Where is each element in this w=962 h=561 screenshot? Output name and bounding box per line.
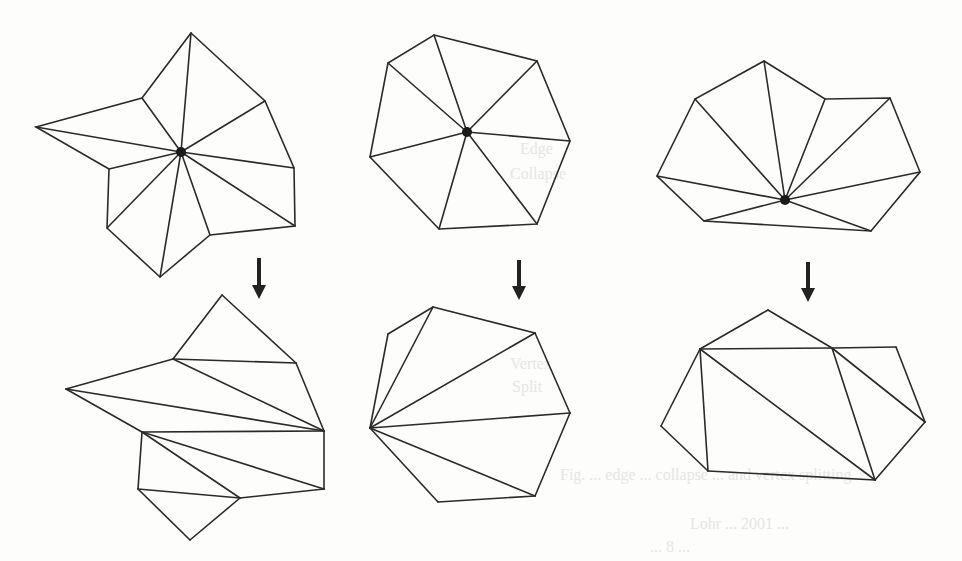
triangulation-edge [708, 471, 875, 480]
triangulation-edge [142, 432, 240, 498]
triangulation-edge [433, 307, 535, 333]
triangulation-edge [661, 349, 700, 426]
triangulation-edge [142, 432, 324, 489]
spoke-edge [181, 33, 191, 152]
triangulation-edge [832, 347, 896, 348]
spoke-edge [181, 152, 294, 168]
spoke-edge [109, 152, 181, 169]
panel-left [36, 33, 324, 540]
triangulation-edge [190, 498, 240, 540]
mesh-simplification-diagram [0, 0, 962, 561]
triangulation-edge [700, 310, 768, 349]
spoke-edge [439, 132, 467, 229]
triangulation-edge [832, 348, 875, 480]
triangulation-edge [370, 428, 438, 502]
spoke-edge [785, 98, 890, 200]
triangulation-edge [875, 422, 925, 480]
spoke-edge [704, 200, 785, 221]
down-arrow-icon [512, 260, 526, 300]
spoke-edge [181, 101, 265, 152]
scanned-page: EdgeCollapseVertexSplitFig. ... edge ...… [0, 0, 962, 561]
before-fan-triangulation [657, 61, 920, 231]
removed-vertex-dot [462, 127, 472, 137]
triangulation-edge [768, 310, 832, 348]
arrow-head [512, 286, 526, 300]
triangulation-edge [66, 359, 173, 389]
spoke-edge [142, 98, 181, 152]
spoke-edge [370, 132, 467, 157]
triangulation-edge [240, 489, 324, 498]
triangulation-edge [222, 295, 296, 363]
after-retriangulation [661, 310, 925, 480]
triangulation-edge [535, 413, 570, 496]
triangulation-edge [700, 349, 875, 480]
triangulation-edge [370, 334, 388, 428]
triangulation-edge [370, 413, 570, 428]
polygon-outline [657, 61, 920, 231]
panel-middle [370, 35, 570, 502]
triangulation-edge [700, 349, 708, 471]
removed-vertex-dot [780, 195, 790, 205]
spoke-edge [181, 152, 210, 235]
after-retriangulation [66, 295, 324, 540]
after-retriangulation [370, 307, 570, 502]
triangulation-edge [700, 348, 832, 349]
spoke-edge [785, 99, 825, 200]
down-arrow-icon [801, 262, 815, 302]
arrow-head [252, 285, 266, 299]
triangulation-edge [138, 489, 190, 540]
spoke-edge [181, 152, 295, 226]
removed-vertex-dot [176, 147, 186, 157]
triangulation-edge [661, 426, 708, 471]
before-fan-triangulation [370, 35, 570, 229]
triangulation-edge [142, 431, 324, 432]
triangulation-edge [173, 295, 222, 359]
spoke-edge [467, 61, 537, 132]
triangulation-edge [535, 333, 570, 413]
before-fan-triangulation [36, 33, 295, 277]
triangulation-edge [173, 359, 296, 363]
triangulation-edge [370, 428, 535, 496]
down-arrow-icon [252, 258, 266, 299]
triangulation-edge [173, 359, 324, 431]
triangulation-edge [438, 496, 535, 502]
panel-right [657, 61, 925, 480]
triangulation-edge [296, 363, 324, 431]
spoke-edge [467, 132, 570, 141]
triangulation-edge [138, 432, 142, 489]
spoke-edge [467, 132, 537, 224]
arrow-head [801, 288, 815, 302]
triangulation-edge [138, 489, 240, 498]
